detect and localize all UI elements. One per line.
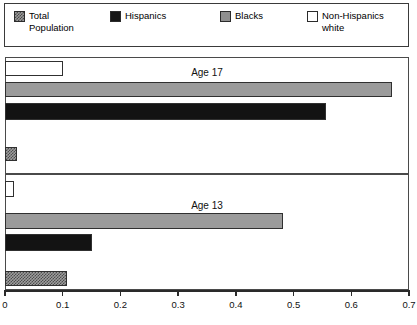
x-axis-tick-1 <box>62 290 63 296</box>
bar-age13-hispanics <box>5 234 92 251</box>
x-axis-tick-label-6: 0.6 <box>345 299 358 310</box>
legend-label-blacks: Blacks <box>235 10 263 22</box>
bar-age13-total-population <box>5 271 67 286</box>
x-axis-tick-5 <box>293 290 294 296</box>
bar-age13-blacks <box>5 213 283 229</box>
x-axis-tick-label-0: 0 <box>2 299 7 310</box>
x-axis-tick-7 <box>408 290 409 296</box>
plot-area: Age 17 Age 13 <box>5 57 409 290</box>
x-axis-tick-4 <box>235 290 236 296</box>
x-axis-line <box>5 290 409 292</box>
panel-title-age-17: Age 17 <box>6 67 408 78</box>
empty-white-swatch-icon <box>307 11 318 22</box>
bar-age13-non-hispanic-white <box>5 181 14 197</box>
x-axis-tick-label-7: 0.7 <box>402 299 415 310</box>
x-axis-tick-0 <box>4 290 5 296</box>
legend-item-blacks: Blacks <box>220 10 263 22</box>
x-axis-tick-label-4: 0.4 <box>229 299 242 310</box>
bar-age17-total-population <box>5 147 17 161</box>
x-axis-tick-label-5: 0.5 <box>287 299 300 310</box>
legend-label-hispanics: Hispanics <box>125 10 166 22</box>
checkered-swatch-icon <box>14 11 25 22</box>
legend-item-hispanics: Hispanics <box>110 10 166 22</box>
panel-title-age-13: Age 13 <box>6 200 408 211</box>
x-axis-tick-label-2: 0.2 <box>114 299 127 310</box>
legend-label-non-hispanic-white: Non-Hispanics white <box>322 10 384 33</box>
legend-item-non-hispanic-white: Non-Hispanics white <box>307 10 384 33</box>
x-axis-tick-2 <box>120 290 121 296</box>
solid-gray-swatch-icon <box>220 11 231 22</box>
legend-label-total-population: Total Population <box>29 10 74 33</box>
bar-age17-non-hispanic-white <box>5 61 63 76</box>
x-axis-tick-label-1: 0.1 <box>56 299 69 310</box>
x-axis-tick-6 <box>351 290 352 296</box>
x-axis-tick-label-3: 0.3 <box>172 299 185 310</box>
x-axis-tick-3 <box>177 290 178 296</box>
solid-black-swatch-icon <box>110 11 121 22</box>
panel-age-13: Age 13 <box>5 174 409 290</box>
chart-legend: Total Population Hispanics Blacks Non-Hi… <box>4 3 409 47</box>
legend-item-total-population: Total Population <box>14 10 74 33</box>
bar-age17-blacks <box>5 82 392 97</box>
bar-age17-hispanics <box>5 103 326 120</box>
panel-age-17: Age 17 <box>5 57 409 174</box>
